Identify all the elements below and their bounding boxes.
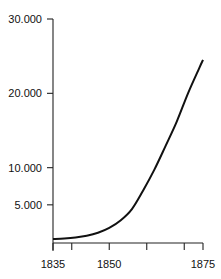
plot-area [53, 60, 203, 239]
y-tick-label: 20.000 [8, 87, 42, 99]
x-tick-label: 1835 [41, 258, 65, 270]
y-tick-label: 10.000 [8, 162, 42, 174]
x-tick-label: 1850 [97, 258, 121, 270]
tick-labels: 5.00010.00020.00030.000183518501875 [8, 13, 215, 270]
axes [53, 19, 203, 251]
y-tick-label: 5.000 [14, 199, 42, 211]
y-tick-label: 30.000 [8, 13, 42, 25]
x-tick-label: 1875 [191, 258, 215, 270]
line-chart: 5.00010.00020.00030.000183518501875 [0, 0, 221, 279]
series-line-growth [53, 60, 203, 239]
